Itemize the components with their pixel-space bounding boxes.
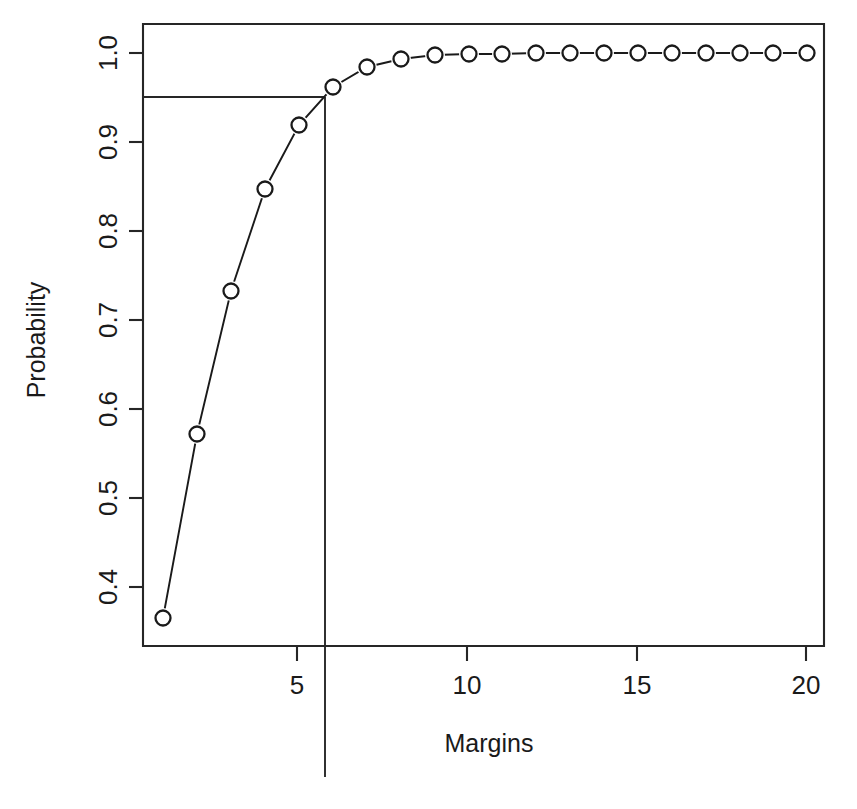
- y-tick-label-0.6: 0.6: [93, 391, 123, 427]
- data-point: [190, 427, 205, 442]
- x-tick-label-10: 10: [453, 670, 482, 700]
- data-point: [428, 48, 443, 63]
- data-point: [326, 80, 341, 95]
- y-axis-title: Probability: [22, 281, 50, 398]
- x-tick-label-5: 5: [290, 670, 304, 700]
- data-point: [699, 46, 714, 61]
- data-point: [258, 182, 273, 197]
- data-point: [495, 47, 510, 62]
- chart-figure: 0.4 0.5 0.6 0.7 0.8 0.9 1.0 5 10 15 20 P…: [0, 0, 857, 809]
- data-point: [360, 60, 375, 75]
- data-point: [462, 47, 477, 62]
- y-tick-label-0.8: 0.8: [93, 213, 123, 249]
- data-point: [800, 46, 815, 61]
- figure-background: [0, 0, 857, 809]
- x-axis-title: Margins: [445, 729, 534, 757]
- plot-canvas: 0.4 0.5 0.6 0.7 0.8 0.9 1.0 5 10 15 20 P…: [0, 0, 857, 809]
- x-tick-label-20: 20: [792, 670, 821, 700]
- data-point: [733, 46, 748, 61]
- data-point: [597, 46, 612, 61]
- data-point: [156, 611, 171, 626]
- data-point: [766, 46, 781, 61]
- x-tick-label-15: 15: [623, 670, 652, 700]
- data-point: [394, 52, 409, 67]
- y-tick-label-0.7: 0.7: [93, 302, 123, 338]
- y-tick-label-1.0: 1.0: [93, 35, 123, 71]
- data-point: [631, 46, 646, 61]
- data-point: [292, 118, 307, 133]
- y-tick-label-0.4: 0.4: [93, 569, 123, 605]
- y-tick-label-0.9: 0.9: [93, 124, 123, 160]
- data-point: [529, 46, 544, 61]
- y-tick-label-0.5: 0.5: [93, 480, 123, 516]
- data-point: [665, 46, 680, 61]
- data-point: [224, 284, 239, 299]
- data-point: [563, 46, 578, 61]
